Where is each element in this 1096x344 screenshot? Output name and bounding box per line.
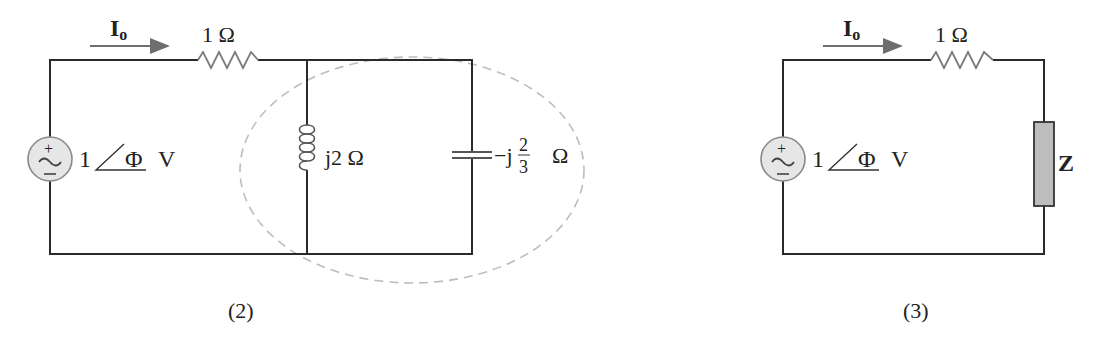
capacitor-icon xyxy=(452,152,492,158)
svg-text:+: + xyxy=(44,140,53,157)
resistor-label: 1 Ω xyxy=(935,22,968,47)
ac-source-icon: + xyxy=(761,137,805,181)
inductor-label: j2 Ω xyxy=(324,145,364,170)
current-label: Io xyxy=(110,15,127,43)
svg-text:1: 1 xyxy=(812,146,824,172)
svg-text:Φ: Φ xyxy=(858,146,876,172)
inductor-icon xyxy=(300,125,315,170)
svg-text:+: + xyxy=(777,140,786,157)
source-label: 1 Φ V xyxy=(79,144,176,172)
resistor-label: 1 Ω xyxy=(202,22,235,47)
circuit-diagram: 1 Ω Io + 1 Φ V j2 Ω xyxy=(0,0,1096,344)
figure-caption: (2) xyxy=(228,298,254,323)
resistor-icon xyxy=(198,52,258,68)
svg-text:1: 1 xyxy=(79,146,91,172)
svg-text:Ω: Ω xyxy=(552,143,568,168)
impedance-icon xyxy=(1034,122,1054,206)
capacitor-label: −j 2 3 Ω xyxy=(494,135,568,177)
svg-text:2: 2 xyxy=(519,135,528,155)
svg-text:3: 3 xyxy=(519,157,528,177)
figure-3: 1 Ω Io + 1 Φ V Z (3) xyxy=(761,15,1074,323)
dashed-enclosure xyxy=(240,57,584,283)
current-label: Io xyxy=(843,15,860,43)
figure-caption: (3) xyxy=(903,298,929,323)
svg-text:−j: −j xyxy=(494,143,513,168)
resistor-icon xyxy=(931,52,993,68)
impedance-label: Z xyxy=(1058,150,1074,176)
svg-text:V: V xyxy=(158,146,176,172)
ac-source-icon: + xyxy=(28,137,72,181)
svg-text:V: V xyxy=(891,146,909,172)
svg-text:Φ: Φ xyxy=(125,146,143,172)
figure-2: 1 Ω Io + 1 Φ V j2 Ω xyxy=(28,15,584,323)
source-label: 1 Φ V xyxy=(812,144,909,172)
